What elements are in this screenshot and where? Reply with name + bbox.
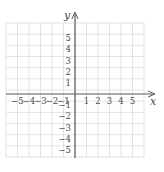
coordinate-plane: x y −5−4−3−2−1 12345 54321 −1−2−3−4−5: [0, 0, 164, 172]
tick-label: −2: [58, 111, 71, 121]
tick-label: 2: [95, 96, 100, 106]
tick-label: 3: [66, 56, 71, 66]
tick-label: 1: [66, 78, 71, 88]
tick-label: 4: [66, 44, 71, 54]
x-axis-label: x: [150, 95, 157, 108]
tick-label: 5: [130, 96, 135, 106]
tick-label: 4: [118, 96, 123, 106]
y-negative-tick-labels: −1−2−3−4−5: [58, 100, 71, 155]
y-positive-tick-labels: 54321: [66, 33, 71, 88]
tick-label: 5: [66, 33, 71, 43]
tick-label: 2: [66, 67, 71, 77]
tick-label: −1: [58, 100, 71, 110]
y-axis-label: y: [63, 9, 71, 22]
tick-label: −5: [58, 145, 71, 155]
tick-label: −4: [58, 134, 71, 144]
tick-label: 3: [107, 96, 112, 106]
tick-label: 1: [84, 96, 89, 106]
tick-label: −3: [58, 123, 71, 133]
